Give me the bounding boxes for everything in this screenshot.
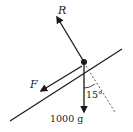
angle-label: 15° [86,89,103,100]
reaction-force-arrow [57,17,84,62]
angle-arc [84,84,95,88]
particle-dot [81,59,87,65]
reaction-label: R [57,4,66,17]
weight-label: 1000 g [50,113,83,124]
force-diagram: R F 15° 1000 g [0,0,133,132]
friction-label: F [29,78,38,91]
inclined-plane-line [10,49,122,121]
